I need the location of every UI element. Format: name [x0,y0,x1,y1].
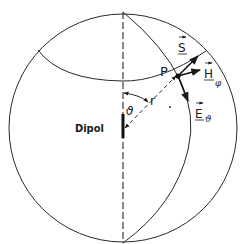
svg-text:E: E [195,107,203,121]
electric-field-arrow [178,76,188,101]
theta-angle-arc [124,93,148,102]
label-e-theta: E ϑ [195,103,212,124]
svg-text:ϑ: ϑ [205,114,212,124]
label-s: S [178,37,187,55]
svg-text:S: S [178,41,186,55]
center-dot [169,106,171,108]
label-r: r [150,94,155,108]
svg-text:H: H [204,67,213,81]
dipole-radiation-diagram: P S H φ E ϑ r ϑ Dipol [0,0,250,244]
label-theta: ϑ [126,104,134,118]
svg-text:φ: φ [215,78,222,88]
label-dipol: Dipol [75,122,104,135]
label-p: P [160,64,168,79]
